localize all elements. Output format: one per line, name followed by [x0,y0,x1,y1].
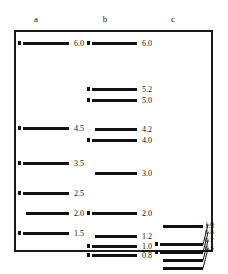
band-label: 4.0 [142,136,152,145]
band-label: 5.2 [142,85,152,94]
band-marker-dot [87,98,90,102]
band-label: 3.5 [74,159,84,168]
gel-band [92,88,137,91]
gel-band [160,251,203,254]
band-label: 2.0 [142,209,152,218]
band-marker-dot [18,126,21,130]
gel-band [92,139,137,142]
band-marker-dot [18,191,21,195]
gel-band [95,172,137,175]
lane-b: 6.05.25.04.24.03.02.01.21.00.8 [86,32,154,250]
gel-frame: 6.04.53.52.52.01.5 6.05.25.04.24.03.02.0… [14,30,213,252]
gel-band [92,99,137,102]
gel-band [92,42,137,45]
band-row: 4.0 [86,135,154,146]
band-row: 5.0 [86,95,154,106]
gel-band [23,127,69,130]
gel-band [23,162,69,165]
band-row: 0.8 [86,250,154,261]
band-label: 4.5 [74,124,84,133]
gel-band [92,254,137,257]
lane-a: 6.04.53.52.52.01.5 [16,32,86,250]
gel-band [23,192,69,195]
band-label: 2.0 [74,209,84,218]
band-row: 1.5 [16,228,86,239]
band-label: 1.5 [74,229,84,238]
band-marker-dot [87,211,90,215]
band-row: 6.0 [86,38,154,49]
column-header-c: c [163,14,183,24]
gel-band [163,225,203,228]
band-marker-dot [155,242,158,246]
band-label: 4.2 [142,125,152,134]
band-label: 0.8 [142,251,152,260]
band-marker-dot [87,41,90,45]
band-label: 6.0 [74,39,84,48]
band-marker-dot [155,250,158,254]
column-header-b: b [95,14,115,24]
gel-band [23,232,69,235]
gel-band [163,267,203,270]
band-marker-dot [87,253,90,257]
band-label: 5.0 [142,96,152,105]
band-row: 2.5 [16,188,86,199]
band-row: 3.5 [16,158,86,169]
gel-band [95,235,137,238]
band-row: 6.0 [16,38,86,49]
band-row: 4.2 [86,124,154,135]
band-label: 3.0 [142,169,152,178]
band-row: 3.0 [86,168,154,179]
band-label: 6.0 [142,39,152,48]
band-marker-dot [18,41,21,45]
band-marker-dot [87,87,90,91]
band-row: 0.5 [154,263,215,274]
column-header-a: a [26,14,46,24]
band-label: 1.2 [142,232,152,241]
gel-band [26,212,69,215]
gel-band [92,245,137,248]
band-row: 4.5 [16,123,86,134]
band-label: 2.5 [74,189,84,198]
lane-c: 1.51.00.80.70.5 [154,32,215,250]
band-marker-dot [18,231,21,235]
band-marker-dot [18,161,21,165]
gel-band [163,259,203,262]
band-marker-dot [87,244,90,248]
band-row: 2.0 [86,208,154,219]
gel-band [95,128,137,131]
band-marker-dot [87,138,90,142]
gel-band [160,243,203,246]
gel-band [23,42,69,45]
band-row: 2.0 [16,208,86,219]
band-row: 5.2 [86,84,154,95]
gel-band [92,212,137,215]
